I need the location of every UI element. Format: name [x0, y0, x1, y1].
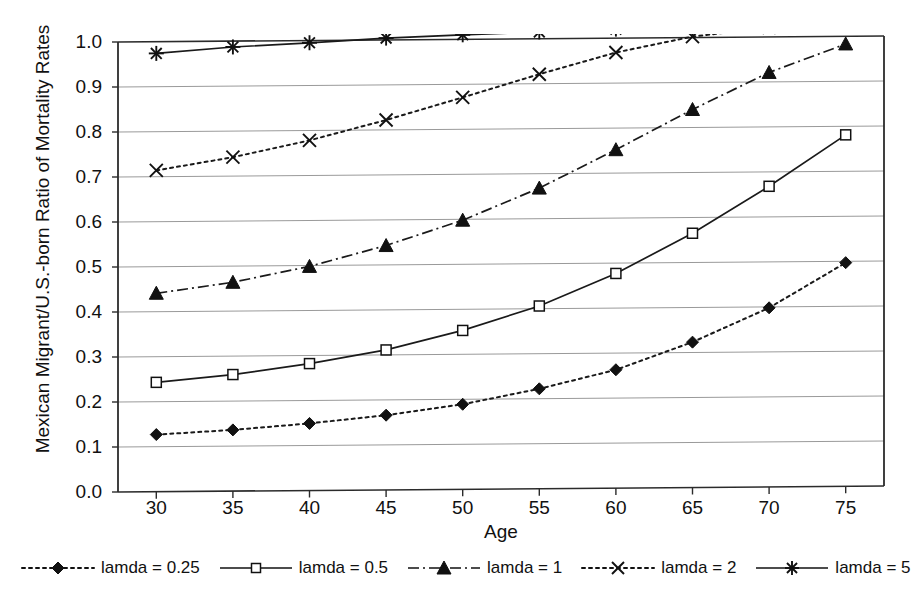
marker-asterisk-star [840, 18, 851, 29]
legend-swatch-filled-diamond [20, 559, 96, 577]
marker-filled-diamond [150, 429, 162, 441]
marker-asterisk-star [687, 22, 698, 33]
marker-filled-diamond [52, 562, 64, 574]
marker-asterisk-star [764, 20, 775, 31]
x-tick-label: 45 [359, 497, 413, 519]
marker-open-square [381, 345, 391, 355]
marker-cross-x [763, 21, 776, 34]
series-3 [149, 37, 852, 299]
marker-asterisk-star [764, 20, 775, 31]
marker-filled-triangle [226, 275, 240, 288]
marker-open-square [458, 325, 468, 335]
series-line [156, 44, 845, 293]
gridline [118, 351, 884, 357]
legend-label: lamda = 2 [661, 558, 736, 578]
gridline [118, 396, 884, 402]
x-tick-label: 65 [666, 497, 720, 519]
y-tick-label: 0.5 [46, 257, 102, 276]
gridline [118, 171, 884, 177]
legend-label: lamda = 0.25 [101, 558, 200, 578]
gridline [118, 441, 884, 447]
gridline [118, 81, 884, 87]
y-tick-label: 0.7 [46, 167, 102, 186]
legend-swatch-open-square [218, 559, 294, 577]
x-tick-label: 60 [589, 497, 643, 519]
legend-label: lamda = 5 [835, 558, 910, 578]
marker-filled-diamond [380, 409, 392, 421]
marker-filled-diamond [304, 417, 316, 429]
x-tick-label: 50 [436, 497, 490, 519]
legend-swatch-asterisk-star [754, 559, 830, 577]
x-tick-label: 55 [512, 497, 566, 519]
series-1 [150, 257, 851, 441]
marker-filled-diamond [763, 302, 775, 314]
marker-filled-diamond [687, 336, 699, 348]
legend-swatch-filled-triangle [406, 559, 482, 577]
series-layer [149, 16, 853, 440]
legend-item[interactable]: lamda = 1 [406, 558, 562, 578]
marker-open-square [228, 370, 238, 380]
y-tick-label: 1.0 [46, 32, 102, 51]
gridline [118, 216, 884, 222]
legend-label: lamda = 0.5 [299, 558, 388, 578]
marker-open-square [151, 377, 161, 387]
y-tick-label: 0.1 [46, 437, 102, 456]
marker-cross-x [839, 17, 852, 30]
y-tick-label: 0.8 [46, 122, 102, 141]
y-tick-label: 0.0 [46, 482, 102, 501]
legend-swatch-cross-x [580, 559, 656, 577]
marker-filled-triangle [839, 37, 853, 50]
marker-open-square [305, 359, 315, 369]
series-2 [151, 130, 850, 388]
y-tick-label: 0.6 [46, 212, 102, 231]
gridline [118, 126, 884, 132]
y-tick-label: 0.9 [46, 77, 102, 96]
x-tick-label: 75 [819, 497, 873, 519]
legend-label: lamda = 1 [487, 558, 562, 578]
legend-item[interactable]: lamda = 2 [580, 558, 736, 578]
marker-filled-triangle [379, 239, 393, 252]
gridline [118, 261, 884, 267]
marker-open-square [688, 228, 698, 238]
legend-item[interactable]: lamda = 0.5 [218, 558, 388, 578]
marker-filled-diamond [840, 257, 852, 269]
y-tick-label: 0.4 [46, 302, 102, 321]
marker-open-square [534, 301, 544, 311]
series-line [156, 263, 845, 435]
marker-filled-diamond [533, 383, 545, 395]
marker-asterisk-star [611, 24, 622, 35]
y-axis-tick-labels: 0.00.10.20.30.40.50.60.70.80.91.0 [46, 0, 102, 607]
marker-filled-triangle [532, 181, 546, 194]
marker-open-square [251, 564, 260, 573]
marker-filled-triangle [609, 143, 623, 156]
chart-legend: lamda = 0.25lamda = 0.5lamda = 1lamda = … [20, 558, 900, 578]
marker-asterisk-star [687, 22, 698, 33]
x-tick-label: 35 [206, 497, 260, 519]
marker-cross-x [763, 21, 776, 34]
marker-open-square [764, 181, 774, 191]
marker-open-square [611, 268, 621, 278]
marker-filled-diamond [457, 398, 469, 410]
y-tick-label: 0.2 [46, 392, 102, 411]
marker-filled-triangle [686, 103, 700, 116]
legend-item[interactable]: lamda = 0.25 [20, 558, 200, 578]
marker-asterisk-star [611, 24, 622, 35]
marker-open-square [841, 130, 851, 140]
legend-item[interactable]: lamda = 5 [754, 558, 910, 578]
x-tick-label: 70 [742, 497, 796, 519]
x-tick-label: 30 [129, 497, 183, 519]
marker-filled-diamond [610, 364, 622, 376]
marker-asterisk-star [840, 18, 851, 29]
x-tick-label: 40 [283, 497, 337, 519]
x-axis-label: Age [118, 521, 884, 543]
marker-filled-diamond [227, 424, 239, 436]
y-tick-label: 0.3 [46, 347, 102, 366]
marker-filled-triangle [762, 65, 776, 78]
marker-cross-x [839, 17, 852, 30]
